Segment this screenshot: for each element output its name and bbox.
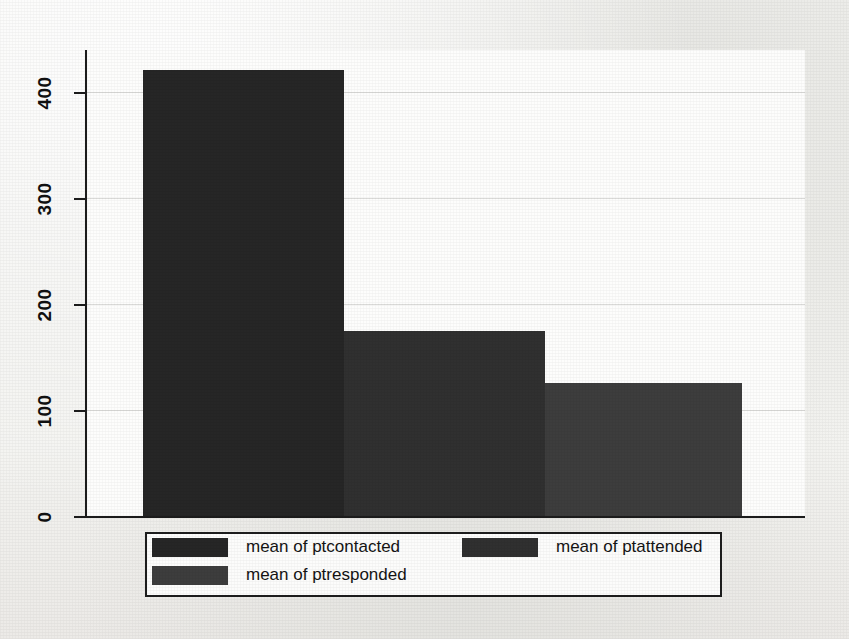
legend-item-ptresponded[interactable]: mean of ptresponded: [152, 565, 407, 585]
bar-ptattended: [344, 331, 545, 517]
y-tick-label-400: 400: [34, 68, 56, 118]
legend-swatch-ptcontacted: [152, 538, 228, 557]
y-tick-label-100: 100: [34, 386, 56, 436]
chart-legend: mean of ptcontacted mean of ptresponded …: [145, 532, 722, 597]
legend-item-ptattended[interactable]: mean of ptattended: [462, 537, 703, 557]
y-tick-200: [74, 304, 86, 306]
bar-ptresponded: [545, 383, 742, 517]
y-tick-100: [74, 410, 86, 412]
bar-ptcontacted: [143, 70, 344, 517]
legend-label-ptresponded: mean of ptresponded: [246, 565, 407, 585]
y-tick-0: [74, 516, 86, 518]
bar-chart: 400 300 200 100 0 mean of ptcontacted me…: [0, 0, 849, 639]
y-tick-400: [74, 92, 86, 94]
y-tick-label-300: 300: [34, 174, 56, 224]
legend-label-ptattended: mean of ptattended: [556, 537, 703, 557]
legend-label-ptcontacted: mean of ptcontacted: [246, 537, 400, 557]
legend-swatch-ptresponded: [152, 566, 228, 585]
y-tick-label-0: 0: [34, 492, 56, 542]
bars-layer: [0, 0, 849, 517]
y-tick-label-200: 200: [34, 280, 56, 330]
legend-swatch-ptattended: [462, 538, 538, 557]
y-tick-300: [74, 198, 86, 200]
y-axis-line: [85, 50, 87, 518]
x-axis-line: [85, 516, 805, 518]
legend-item-ptcontacted[interactable]: mean of ptcontacted: [152, 537, 400, 557]
